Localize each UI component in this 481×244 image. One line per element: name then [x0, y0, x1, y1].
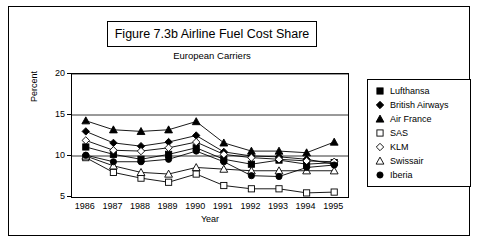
legend-label: SAS	[390, 128, 408, 138]
chart-title: Figure 7.3b Airline Fuel Cost Share	[115, 27, 310, 41]
legend-item: Lufthansa	[373, 84, 466, 98]
x-tick-label: 1992	[240, 201, 260, 211]
x-tick-label: 1991	[213, 201, 233, 211]
x-tick-label: 1995	[323, 201, 343, 211]
chart-subtitle: European Carriers	[107, 50, 317, 61]
x-tick-label: 1989	[158, 201, 178, 211]
legend-label: Iberia	[390, 170, 413, 180]
legend-item: British Airways	[373, 98, 466, 112]
x-axis-title: Year	[71, 214, 349, 224]
x-tick-label: 1988	[130, 201, 150, 211]
y-tick-mark	[67, 155, 71, 156]
legend-label: British Airways	[390, 100, 449, 110]
legend-label: KLM	[390, 142, 409, 152]
legend-label: Swissair	[390, 156, 424, 166]
legend-item: Iberia	[373, 168, 466, 182]
open-square-icon	[373, 126, 387, 140]
filled-triangle-icon	[373, 112, 387, 126]
legend-label: Lufthansa	[390, 86, 430, 96]
legend-item: SAS	[373, 126, 466, 140]
chart-svg	[72, 74, 348, 197]
filled-diamond-icon	[373, 98, 387, 112]
filled-circle-icon	[373, 168, 387, 182]
y-tick-mark	[67, 196, 71, 197]
legend-item: Swissair	[373, 154, 466, 168]
y-tick-mark	[67, 73, 71, 74]
legend-item: KLM	[373, 140, 466, 154]
x-tick-label: 1986	[75, 201, 95, 211]
open-triangle-icon	[373, 154, 387, 168]
y-tick-label: 20	[41, 68, 65, 78]
y-tick-mark	[67, 114, 71, 115]
y-axis-title: Percent	[29, 71, 39, 102]
y-tick-label: 5	[41, 191, 65, 201]
chart-legend: LufthansaBritish AirwaysAir FranceSASKLM…	[367, 79, 471, 187]
plot-area	[71, 73, 349, 198]
y-tick-label: 15	[41, 109, 65, 119]
x-tick-label: 1994	[296, 201, 316, 211]
legend-label: Air France	[390, 114, 432, 124]
x-tick-label: 1990	[185, 201, 205, 211]
y-tick-label: 10	[41, 150, 65, 160]
chart-frame: Figure 7.3b Airline Fuel Cost Share Euro…	[8, 6, 470, 236]
chart-title-box: Figure 7.3b Airline Fuel Cost Share	[107, 21, 317, 47]
x-tick-label: 1987	[102, 201, 122, 211]
x-tick-label: 1993	[268, 201, 288, 211]
legend-item: Air France	[373, 112, 466, 126]
open-diamond-icon	[373, 140, 387, 154]
filled-square-icon	[373, 84, 387, 98]
